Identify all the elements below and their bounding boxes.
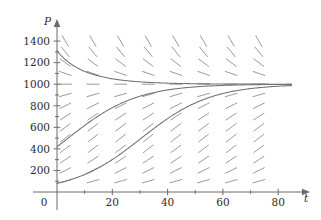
slope-field — [59, 35, 266, 183]
x-tick-label: 60 — [216, 196, 229, 208]
slope-segment — [253, 179, 266, 183]
x-tick-label: 80 — [272, 196, 285, 208]
axes — [33, 19, 310, 210]
slope-segment — [199, 47, 207, 57]
y-tick-label: 400 — [30, 143, 50, 155]
slope-segment — [170, 168, 182, 174]
slope-segment — [226, 123, 236, 131]
slope-segment — [115, 113, 126, 120]
solution-curve — [57, 51, 291, 84]
slope-segment — [145, 35, 151, 46]
x-axis-title: t — [304, 192, 309, 204]
slope-segment — [253, 93, 266, 97]
slope-segment — [117, 35, 123, 46]
slope-segment — [226, 113, 237, 120]
slope-segment — [228, 35, 234, 46]
slope-segment — [197, 71, 209, 75]
slope-segment — [88, 134, 98, 142]
slope-segment — [226, 156, 237, 163]
slope-segment — [59, 93, 72, 97]
slope-segment — [197, 93, 210, 97]
slope-segment — [225, 103, 237, 109]
slope-segment — [87, 93, 100, 97]
y-axis-arrow — [54, 19, 61, 27]
slope-segment — [89, 47, 97, 57]
y-axis-title: P — [43, 15, 52, 27]
y-tick-label: 1400 — [23, 35, 50, 47]
slope-segment — [255, 47, 263, 57]
slope-segment — [115, 168, 127, 174]
slope-segment — [227, 47, 235, 57]
slope-segment — [171, 145, 181, 153]
slope-segment — [115, 123, 125, 131]
slope-segment — [170, 93, 183, 97]
slope-segment — [115, 156, 126, 163]
y-tick-label: 1000 — [23, 78, 50, 90]
y-tick-label: 1200 — [23, 56, 50, 68]
slope-segment — [254, 145, 264, 153]
slope-segment — [253, 103, 265, 109]
slope-segment — [198, 156, 209, 163]
slope-segment — [225, 168, 237, 174]
slope-segment — [198, 59, 208, 67]
slope-segment — [60, 113, 71, 120]
slope-segment — [142, 103, 154, 109]
slope-segment — [173, 35, 179, 46]
solution-curve — [57, 86, 291, 184]
slope-segment — [256, 35, 262, 46]
direction-field-figure: 204060802004006008001000120014000 P t — [0, 0, 321, 220]
slope-segment — [88, 59, 98, 67]
tick-marks — [54, 41, 279, 195]
slope-segment — [170, 156, 181, 163]
slope-segment — [114, 71, 126, 75]
slope-segment — [59, 168, 71, 174]
slope-segment — [254, 134, 264, 142]
slope-segment — [171, 134, 181, 142]
slope-segment — [88, 123, 98, 131]
slope-segment — [142, 179, 155, 183]
slope-segment — [59, 103, 71, 109]
slope-segment — [60, 123, 70, 131]
slope-segment — [198, 145, 208, 153]
slope-segment — [143, 145, 153, 153]
slope-segment — [171, 123, 181, 131]
slope-segment — [254, 59, 264, 67]
slope-segment — [226, 59, 236, 67]
solution-curve — [57, 84, 291, 146]
slope-segment — [253, 168, 265, 174]
slope-segment — [87, 103, 99, 109]
slope-segment — [197, 179, 210, 183]
slope-segment — [170, 103, 182, 109]
slope-segment — [200, 35, 206, 46]
slope-segment — [61, 47, 69, 57]
slope-segment — [144, 47, 152, 57]
slope-segment — [116, 47, 124, 57]
slope-segment — [170, 113, 181, 120]
slope-segment — [253, 113, 264, 120]
slope-segment — [170, 71, 182, 75]
slope-segment — [143, 113, 154, 120]
y-tick-label: 600 — [30, 121, 50, 133]
slope-segment — [115, 134, 125, 142]
slope-segment — [115, 59, 125, 67]
slope-segment — [88, 156, 99, 163]
x-tick-label: 20 — [106, 196, 119, 208]
slope-segment — [114, 93, 127, 97]
slope-segment — [114, 179, 127, 183]
slope-segment — [87, 179, 100, 183]
slope-segment — [253, 156, 264, 163]
slope-segment — [198, 103, 210, 109]
slope-segment — [142, 168, 154, 174]
slope-segment — [60, 156, 71, 163]
slope-segment — [253, 71, 265, 75]
slope-segment — [90, 35, 96, 46]
slope-segment — [225, 179, 238, 183]
slope-segment — [88, 145, 98, 153]
slope-segment — [225, 93, 238, 97]
slope-segment — [143, 59, 153, 67]
slope-segment — [59, 71, 71, 75]
y-tick-label: 800 — [30, 100, 50, 112]
slope-segment — [171, 59, 181, 67]
plot-canvas: 204060802004006008001000120014000 P t — [0, 0, 321, 220]
y-tick-label: 200 — [30, 164, 50, 176]
